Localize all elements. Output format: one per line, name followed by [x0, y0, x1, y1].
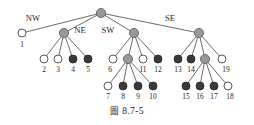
- caption-number: 8.7-5: [122, 105, 143, 116]
- node-label-n14: 14: [187, 65, 195, 74]
- node-label-n12: 12: [154, 65, 162, 74]
- tree-node-n1[interactable]: [18, 29, 26, 37]
- tree-node-n13[interactable]: [174, 55, 182, 63]
- node-label-n13: 13: [174, 65, 182, 74]
- tree-node-n15[interactable]: [182, 82, 190, 90]
- nodes-layer: [18, 8, 232, 90]
- tree-node-n2[interactable]: [40, 55, 48, 63]
- node-label-n10: 10: [149, 92, 157, 101]
- tree-node-root[interactable]: [96, 8, 105, 17]
- node-label-n17: 17: [210, 92, 218, 101]
- tree-edge-se-n13: [178, 33, 199, 59]
- node-label-n7: 7: [106, 92, 110, 101]
- tree-node-n19[interactable]: [218, 55, 226, 63]
- node-label-n4: 4: [71, 65, 75, 74]
- tree-node-n8[interactable]: [119, 82, 127, 90]
- tree-node-n3[interactable]: [54, 55, 62, 63]
- node-label-n15: 15: [182, 92, 190, 101]
- caption-prefix-glyph: 圖: [110, 106, 119, 116]
- tree-edge-sw-n12: [134, 33, 158, 59]
- node-label-n9: 9: [136, 92, 140, 101]
- tree-node-n18[interactable]: [224, 82, 232, 90]
- tree-node-ne[interactable]: [59, 28, 68, 37]
- tree-node-n10[interactable]: [149, 82, 157, 90]
- direction-label-sw: SW: [102, 25, 116, 35]
- node-label-n8: 8: [121, 92, 125, 101]
- tree-node-n11[interactable]: [139, 55, 147, 63]
- direction-label-nw: NW: [26, 13, 41, 23]
- tree-node-n12[interactable]: [154, 55, 162, 63]
- node-label-n5: 5: [86, 65, 90, 74]
- figure-caption: 圖 8.7-5: [0, 104, 254, 118]
- tree-node-n17[interactable]: [210, 82, 218, 90]
- tree-node-n16[interactable]: [196, 82, 204, 90]
- tree-node-n4[interactable]: [69, 55, 77, 63]
- tree-node-se[interactable]: [194, 28, 203, 37]
- node-label-n1: 1: [20, 40, 24, 49]
- tree-node-sw[interactable]: [129, 28, 138, 37]
- node-number-labels: 12345611121314197891015161718: [20, 40, 234, 101]
- node-label-n16: 16: [196, 92, 204, 101]
- tree-edge-ne-n5: [64, 33, 88, 59]
- node-label-n2: 2: [42, 65, 46, 74]
- edges-layer: [22, 13, 228, 86]
- tree-node-seq[interactable]: [200, 54, 209, 63]
- direction-label-se: SE: [165, 13, 175, 23]
- tree-node-n5[interactable]: [84, 55, 92, 63]
- quadtree-figure: 12345611121314197891015161718 NWNESWSE 圖…: [0, 0, 254, 125]
- tree-node-n9[interactable]: [134, 82, 142, 90]
- tree-node-swq[interactable]: [123, 54, 132, 63]
- node-label-n11: 11: [139, 65, 146, 74]
- node-label-n6: 6: [108, 65, 112, 74]
- node-label-n18: 18: [226, 92, 234, 101]
- direction-label-ne: NE: [74, 25, 85, 35]
- node-label-n3: 3: [56, 65, 60, 74]
- node-label-n19: 19: [222, 65, 230, 74]
- tree-node-n7[interactable]: [104, 82, 112, 90]
- tree-node-n6[interactable]: [109, 55, 117, 63]
- tree-edge-root-se: [101, 13, 199, 33]
- tree-node-n14[interactable]: [187, 55, 195, 63]
